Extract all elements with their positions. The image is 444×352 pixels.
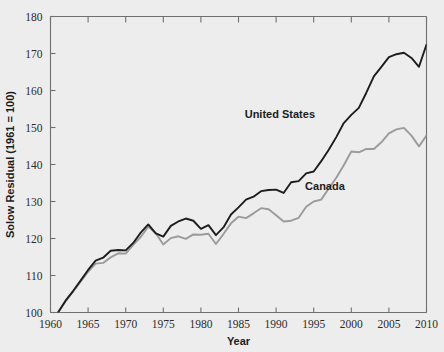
x-tick-label: 1975 — [152, 318, 175, 330]
y-tick-label: 130 — [25, 196, 43, 208]
series-annotation-canada: Canada — [305, 180, 346, 192]
x-tick-label: 2000 — [340, 318, 363, 330]
y-axis-title: Solow Residual (1961 = 100) — [4, 91, 16, 238]
y-tick-label: 120 — [25, 233, 43, 245]
x-tick-label: 1960 — [39, 318, 62, 330]
series-annotation-united-states: United States — [245, 108, 315, 120]
x-tick-label: 1990 — [265, 318, 288, 330]
y-tick-label: 160 — [25, 85, 43, 97]
x-tick-label: 2005 — [377, 318, 400, 330]
x-tick-label: 1970 — [114, 318, 137, 330]
solow-residual-line-chart: 1001101201301401501601701801960196519701… — [0, 0, 444, 352]
x-tick-label: 1980 — [189, 318, 212, 330]
x-tick-label: 1965 — [77, 318, 100, 330]
y-tick-label: 150 — [25, 122, 43, 134]
y-tick-label: 170 — [25, 48, 43, 60]
y-tick-label: 180 — [25, 11, 43, 23]
x-axis-title: Year — [227, 335, 251, 347]
y-tick-label: 140 — [25, 159, 43, 171]
x-tick-label: 1995 — [302, 318, 325, 330]
x-tick-label: 1985 — [227, 318, 250, 330]
chart-container: 1001101201301401501601701801960196519701… — [0, 0, 444, 352]
x-tick-label: 2010 — [415, 318, 438, 330]
y-tick-label: 110 — [26, 270, 43, 282]
